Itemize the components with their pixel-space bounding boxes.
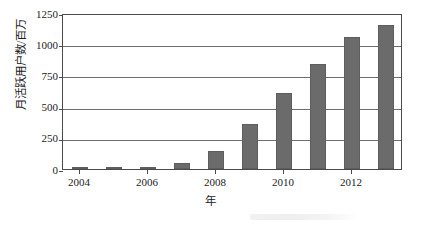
bar-2013 bbox=[378, 25, 394, 169]
y-tick-mark-1000 bbox=[59, 46, 63, 47]
scan-artifact bbox=[250, 214, 360, 220]
bar-2004 bbox=[72, 167, 88, 169]
x-tick-label: 2004 bbox=[68, 176, 90, 188]
x-tick-mark-2006 bbox=[147, 170, 148, 174]
x-tick-label: 2008 bbox=[204, 176, 226, 188]
y-tick-mark-250 bbox=[59, 140, 63, 141]
bar-series bbox=[63, 15, 401, 169]
y-tick-label: 1250 bbox=[36, 9, 58, 20]
x-tick-mark-2012 bbox=[351, 170, 352, 174]
chart-figure: 1250 1000 750 500 250 0 月活跃用户数/百万 bbox=[0, 0, 421, 234]
bar-2006 bbox=[140, 167, 156, 169]
bar-2005 bbox=[106, 167, 122, 169]
x-tick-label: 2010 bbox=[272, 176, 294, 188]
bar-2007 bbox=[174, 163, 190, 169]
y-tick-mark-500 bbox=[59, 109, 63, 110]
x-tick-label: 2006 bbox=[136, 176, 158, 188]
x-tick-label: 2012 bbox=[340, 176, 362, 188]
x-axis-title: 年 bbox=[0, 194, 421, 208]
x-tick-mark-2004 bbox=[79, 170, 80, 174]
y-tick-label: 1000 bbox=[36, 40, 58, 51]
y-tick-label: 250 bbox=[42, 133, 59, 144]
plot-area bbox=[62, 14, 402, 170]
y-tick-mark-750 bbox=[59, 77, 63, 78]
x-tick-mark-2008 bbox=[215, 170, 216, 174]
bar-2008 bbox=[208, 151, 224, 169]
bar-2010 bbox=[276, 93, 292, 169]
y-tick-label: 500 bbox=[42, 102, 59, 113]
bar-2011 bbox=[310, 64, 326, 169]
x-tick-mark-2010 bbox=[283, 170, 284, 174]
y-tick-mark-1250 bbox=[59, 15, 63, 16]
x-axis-tick-labels: 2004 2006 2008 2010 2012 bbox=[0, 176, 421, 192]
y-tick-label: 0 bbox=[53, 165, 59, 176]
y-axis-title: 月活跃用户数/百万 bbox=[15, 0, 28, 135]
bar-2012 bbox=[344, 37, 360, 169]
y-tick-label: 750 bbox=[42, 71, 59, 82]
bar-2009 bbox=[242, 124, 258, 169]
